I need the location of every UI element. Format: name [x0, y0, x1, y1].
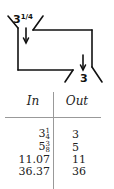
column-header-out: Out [57, 94, 97, 108]
input-label: 31/4 [13, 14, 33, 25]
table-header-rule [5, 117, 101, 118]
table-column-divider [53, 92, 54, 189]
column-header-in: In [13, 94, 53, 108]
funnel-right-edge [33, 16, 43, 30]
table-cell-in: 538 [39, 141, 50, 153]
table-cell-in: 314 [39, 128, 50, 140]
table-cell-out: 3 [72, 129, 79, 141]
table-cell-in: 36.37 [19, 166, 51, 178]
table-cell-out: 36 [72, 166, 86, 178]
output-label: 3 [80, 73, 88, 84]
